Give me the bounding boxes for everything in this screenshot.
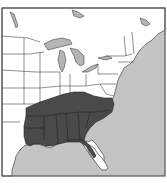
map-content bbox=[2, 8, 165, 176]
range-map bbox=[0, 0, 167, 183]
